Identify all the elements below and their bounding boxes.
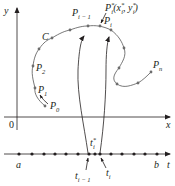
curve-c xyxy=(32,25,153,108)
curve-labels: C P0 P1 P2 Pi − 1 Pi Pn P*i(x*i, y*i) xyxy=(35,1,162,113)
partition-point-b xyxy=(155,152,158,155)
point-p-i xyxy=(110,29,113,32)
partition-point xyxy=(109,152,112,155)
point-p1 xyxy=(34,87,37,90)
curve-point xyxy=(38,48,41,51)
label-p1: P1 xyxy=(37,84,47,97)
origin-label: 0 xyxy=(9,119,14,130)
curve-label-c: C xyxy=(42,31,49,42)
partition-point xyxy=(53,152,56,155)
point-p0 xyxy=(44,105,47,108)
map-arrow-t-i-minus-1 xyxy=(78,36,88,153)
partition-point-a xyxy=(17,152,20,155)
label-t-i: ti xyxy=(106,167,111,180)
label-p-i-star: P*i(x*i, y*i) xyxy=(104,1,139,15)
partition-point xyxy=(76,152,79,155)
curve-point xyxy=(51,37,54,40)
label-t-star: t*i xyxy=(90,136,97,150)
partition-point-t-i xyxy=(98,152,101,155)
sample-point-t-star xyxy=(93,152,96,155)
t-i-minus-1-arrow xyxy=(86,158,88,170)
t-i-arrow xyxy=(101,158,106,168)
label-pn: Pn xyxy=(152,59,162,72)
curve-point xyxy=(137,82,140,85)
curve-point xyxy=(69,29,72,32)
curve-point xyxy=(118,67,121,70)
x-axis: x 0 xyxy=(4,117,171,130)
parametric-curve-figure: y x 0 C P0 P1 P2 Pi − 1 Pi Pn P*i(x*i, y… xyxy=(0,0,175,186)
point-p2 xyxy=(32,65,35,68)
partition-point-t-i-minus-1 xyxy=(87,152,90,155)
y-axis-label: y xyxy=(3,5,9,16)
label-p-i-minus-1: Pi − 1 xyxy=(71,7,91,20)
partition-point xyxy=(64,152,67,155)
map-arrow-t-i xyxy=(100,37,109,153)
label-b: b xyxy=(154,159,159,170)
point-p-i-star xyxy=(99,25,102,28)
point-pn xyxy=(150,71,153,74)
curve-point xyxy=(116,83,119,86)
label-t-axis: t xyxy=(167,159,170,170)
label-a: a xyxy=(16,159,21,170)
t-number-line: a b t t*i ti − 1 ti xyxy=(4,136,170,183)
label-t-i-minus-1: ti − 1 xyxy=(75,170,90,183)
curve-point xyxy=(123,47,126,50)
partition-point xyxy=(42,152,45,155)
label-p0: P0 xyxy=(49,100,60,113)
partition-point xyxy=(30,152,33,155)
label-p2: P2 xyxy=(35,62,46,75)
x-axis-label: x xyxy=(165,119,171,130)
partition-point xyxy=(132,152,135,155)
y-axis: y xyxy=(3,5,17,130)
partition-point xyxy=(143,152,146,155)
partition-point xyxy=(120,152,123,155)
point-p-i-minus-1 xyxy=(87,25,90,28)
